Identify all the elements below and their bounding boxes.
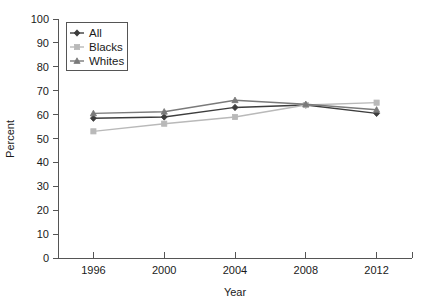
- data-point-marker: [91, 129, 96, 134]
- y-tick-label: 80: [37, 61, 49, 73]
- data-point-marker: [232, 114, 237, 119]
- y-tick-label: 70: [37, 85, 49, 97]
- x-tick-label: 2012: [364, 264, 388, 276]
- legend-label: Whites: [89, 55, 124, 67]
- x-tick-label: 2008: [294, 264, 318, 276]
- x-tick-label: 2000: [152, 264, 176, 276]
- y-axis-title: Percent: [4, 120, 16, 158]
- x-tick-label: 2004: [223, 264, 247, 276]
- y-tick-label: 90: [37, 37, 49, 49]
- y-tick-label: 30: [37, 180, 49, 192]
- x-tick-label: 1996: [81, 264, 105, 276]
- y-tick-label: 10: [37, 228, 49, 240]
- legend-label: Blacks: [89, 41, 123, 53]
- data-point-marker: [232, 104, 238, 110]
- data-point-marker: [374, 100, 379, 105]
- x-axis-ticks: 19962000200420082012: [81, 252, 389, 276]
- series-layer: [90, 97, 379, 134]
- y-tick-label: 0: [43, 252, 49, 264]
- legend-swatch-marker: [74, 44, 79, 49]
- y-tick-label: 100: [31, 13, 49, 25]
- data-point-marker: [161, 114, 167, 120]
- x-axis-title: Year: [224, 286, 247, 298]
- chart-canvas: 0102030405060708090100 19962000200420082…: [0, 0, 424, 301]
- line-chart: 0102030405060708090100 19962000200420082…: [0, 0, 424, 301]
- y-axis-ticks: 0102030405060708090100: [31, 13, 58, 264]
- y-tick-label: 50: [37, 133, 49, 145]
- data-point-marker: [162, 121, 167, 126]
- y-tick-label: 20: [37, 204, 49, 216]
- y-tick-label: 60: [37, 109, 49, 121]
- chart-legend: AllBlacksWhites: [66, 22, 127, 70]
- y-tick-label: 40: [37, 156, 49, 168]
- legend-label: All: [89, 27, 102, 39]
